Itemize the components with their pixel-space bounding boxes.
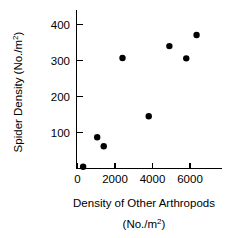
- data-point: [183, 55, 189, 61]
- y-axis-title: Spider Density (No./m2): [11, 31, 24, 152]
- y-tick-label-300: 300: [51, 55, 70, 67]
- data-point: [94, 134, 100, 140]
- y-axis-ticks: [77, 25, 83, 133]
- y-tick-label-400: 400: [51, 19, 70, 31]
- x-tick-label-0: 0: [74, 173, 80, 185]
- data-point: [101, 143, 107, 149]
- plot-canvas: 400 300 200 100 0 2000 4000 6000 Spider …: [0, 0, 247, 238]
- x-tick-label-2000: 2000: [102, 173, 128, 185]
- x-axis-units: (No./m2): [123, 217, 166, 230]
- x-tick-label-6000: 6000: [177, 173, 203, 185]
- data-points-group: [80, 32, 200, 170]
- x-axis-ticks: [78, 163, 191, 169]
- data-point: [119, 55, 125, 61]
- x-axis-units-close: ): [162, 218, 166, 230]
- x-tick-labels: 0 2000 4000 6000: [74, 173, 203, 185]
- data-point: [193, 32, 199, 38]
- y-tick-label-100: 100: [51, 127, 70, 139]
- data-point: [146, 113, 152, 119]
- scatter-plot-figure: 400 300 200 100 0 2000 4000 6000 Spider …: [0, 0, 247, 238]
- y-tick-labels: 400 300 200 100: [51, 19, 70, 139]
- y-axis-title-text: Spider Density (No./m: [12, 40, 24, 152]
- x-axis-units-text: (No./m: [123, 218, 158, 230]
- y-tick-label-200: 200: [51, 91, 70, 103]
- x-axis-title: Density of Other Arthropods: [73, 197, 215, 209]
- data-point: [80, 164, 86, 170]
- data-point: [166, 43, 172, 49]
- x-tick-label-4000: 4000: [140, 173, 166, 185]
- y-axis-title-close: ): [12, 31, 24, 35]
